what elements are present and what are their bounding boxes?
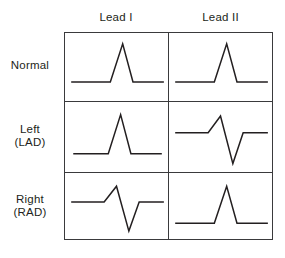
cell-left-lead-2 [169,102,272,173]
ecg-axis-figure: Lead I Lead II Normal Left (LAD) Right (… [0,0,285,258]
cell-right-lead-2 [169,173,272,239]
waveform-right-lead-1 [65,173,168,239]
column-header-lead-2: Lead II [168,9,273,25]
waveform-trace [71,44,164,82]
waveform-trace [73,115,162,154]
waveform-grid [64,32,273,240]
cell-normal-lead-1 [65,33,169,102]
row-label-right-abbreviation: (RAD) [0,206,60,219]
row-label-right-primary: Right [0,193,60,206]
row-label-normal: Normal [0,59,60,72]
column-header-lead-1: Lead I [64,9,168,25]
cell-left-lead-1 [65,102,169,173]
row-label-left: Left (LAD) [0,123,60,149]
waveform-normal-lead-1 [65,33,168,101]
row-label-left-primary: Left [0,123,60,136]
cell-right-lead-1 [65,173,169,239]
row-label-normal-primary: Normal [0,59,60,72]
waveform-trace [175,186,268,223]
cell-normal-lead-2 [169,33,272,102]
waveform-normal-lead-2 [169,33,272,101]
waveform-left-lead-2 [169,102,272,172]
waveform-trace [175,116,268,164]
row-label-left-abbreviation: (LAD) [0,136,60,149]
waveform-left-lead-1 [65,102,168,172]
waveform-trace [175,44,268,82]
waveform-trace [71,186,164,231]
row-label-right: Right (RAD) [0,193,60,219]
waveform-right-lead-2 [169,173,272,239]
